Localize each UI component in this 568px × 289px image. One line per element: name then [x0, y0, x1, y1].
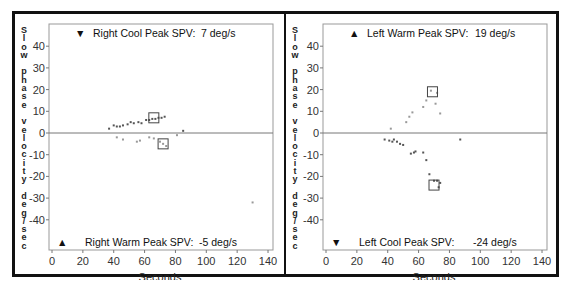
- data-point: [137, 121, 139, 123]
- data-point: [390, 128, 392, 130]
- data-point: [414, 150, 416, 152]
- x-tick-label: 40: [108, 255, 120, 267]
- data-point: [425, 159, 427, 161]
- data-point: [428, 173, 430, 175]
- data-point: [113, 124, 115, 126]
- data-point: [405, 121, 407, 123]
- data-point: [116, 136, 118, 138]
- data-point: [140, 122, 142, 124]
- y-tick-label: -40: [303, 214, 319, 226]
- bottom-peak-label: Left Cool Peak SPV:: [359, 236, 454, 248]
- y-tick-label: -30: [303, 192, 319, 204]
- data-point: [122, 139, 124, 141]
- y-tick-label: -10: [303, 149, 319, 161]
- plot-frame: [49, 24, 273, 250]
- data-point: [459, 139, 461, 141]
- y-tick-label: 30: [33, 62, 45, 74]
- data-point: [136, 141, 138, 143]
- data-point: [410, 153, 412, 155]
- x-tick-label: 0: [323, 255, 329, 267]
- data-point: [159, 141, 161, 143]
- y-tick-label: 20: [307, 84, 319, 96]
- y-tick-label: 40: [33, 40, 45, 52]
- data-point: [151, 118, 153, 120]
- data-point: [391, 141, 393, 143]
- data-point: [388, 140, 390, 142]
- x-tick-label: 60: [412, 255, 424, 267]
- top-marker-icon: ▼: [75, 27, 85, 39]
- y-tick-label: 0: [39, 127, 45, 139]
- data-point: [116, 125, 118, 127]
- x-tick-label: 100: [197, 255, 215, 267]
- data-point: [154, 118, 156, 120]
- data-point: [408, 116, 410, 118]
- plot-frame: [323, 24, 547, 250]
- bottom-peak-value: -5 deg/s: [199, 236, 237, 248]
- data-point: [182, 130, 184, 132]
- data-point: [252, 201, 254, 203]
- data-point: [133, 122, 135, 124]
- scatter-plot-right: 403020100-10-20-30-40020406080100120140S…: [286, 14, 561, 280]
- data-point: [396, 141, 398, 143]
- x-tick-label: 60: [138, 255, 150, 267]
- data-point: [430, 90, 432, 92]
- data-point: [162, 143, 164, 145]
- data-point: [422, 152, 424, 154]
- scatter-plot-left: 403020100-10-20-30-40020406080100120140S…: [15, 14, 289, 280]
- data-point: [402, 144, 404, 146]
- top-marker-icon: ▲: [349, 27, 359, 39]
- data-point: [164, 116, 166, 118]
- x-tick-label: 120: [228, 255, 246, 267]
- data-point: [425, 99, 427, 101]
- top-peak-value: 7 deg/s: [201, 27, 235, 39]
- y-tick-label: 10: [307, 105, 319, 117]
- y-tick-label: 10: [33, 105, 45, 117]
- y-tick-label: -40: [29, 214, 45, 226]
- data-point: [130, 121, 132, 123]
- bottom-peak-value: -24 deg/s: [473, 236, 517, 248]
- x-tick-label: 0: [49, 255, 55, 267]
- data-point: [399, 143, 401, 145]
- data-point: [422, 106, 424, 108]
- data-point: [148, 136, 150, 138]
- y-tick-label: 20: [33, 84, 45, 96]
- x-tick-label: 140: [533, 255, 551, 267]
- data-point: [393, 139, 395, 141]
- data-point: [122, 124, 124, 126]
- data-point: [435, 103, 437, 105]
- x-tick-label: 20: [351, 255, 363, 267]
- data-point: [176, 134, 178, 136]
- bottom-peak-label: Right Warm Peak SPV:: [85, 236, 193, 248]
- top-peak-label: Left Warm Peak SPV:: [367, 27, 468, 39]
- y-tick-label: 40: [307, 40, 319, 52]
- bottom-marker-icon: ▼: [331, 236, 341, 248]
- x-tick-label: 80: [443, 255, 455, 267]
- x-tick-label: 140: [259, 255, 277, 267]
- data-point: [139, 140, 141, 142]
- x-tick-label: 40: [382, 255, 394, 267]
- y-tick-label: -20: [29, 170, 45, 182]
- y-tick-label: -30: [29, 192, 45, 204]
- x-tick-label: 120: [502, 255, 520, 267]
- data-point: [439, 112, 441, 114]
- data-point: [161, 117, 163, 119]
- y-tick-label: 30: [307, 62, 319, 74]
- y-tick-label: 0: [313, 127, 319, 139]
- data-point: [145, 119, 147, 121]
- top-peak-label: Right Cool Peak SPV:: [93, 27, 195, 39]
- x-tick-label: 20: [77, 255, 89, 267]
- data-point: [411, 111, 413, 113]
- y-tick-label: -20: [303, 170, 319, 182]
- x-axis-title: Seconds: [139, 271, 182, 280]
- data-point: [119, 125, 121, 127]
- peak-marker-box: [427, 87, 437, 97]
- x-tick-label: 80: [169, 255, 181, 267]
- y-tick-label: -10: [29, 149, 45, 161]
- data-point: [127, 123, 129, 125]
- chart-panel-right-ear: S l o w p h a s e v e l o c i t y d e g …: [12, 11, 286, 277]
- top-peak-value: 19 deg/s: [475, 27, 515, 39]
- x-tick-label: 100: [471, 255, 489, 267]
- data-point: [165, 145, 167, 147]
- bottom-marker-icon: ▲: [57, 236, 67, 248]
- peak-marker-box: [149, 113, 159, 123]
